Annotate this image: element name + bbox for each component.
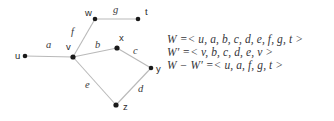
equation-W-minus-W-prime-text: W − W′ =< u, a, f, g, t >: [167, 59, 283, 71]
vertex-dot-w: [93, 17, 98, 22]
edge-a-u-v: [25, 56, 73, 57]
vertex-dot-x: [114, 45, 119, 50]
vertex-dot-y: [149, 66, 154, 71]
vertex-label-y: y: [156, 63, 161, 74]
edge-label-d: d: [138, 83, 144, 94]
edge-f-v-w: [73, 19, 95, 57]
equation-W-text: W =< u, a, b, c, d, e, f, g, t >: [167, 33, 303, 45]
edge-e-v-z: [73, 57, 116, 105]
equation-W-prime-text: W′ =< v, b, c, d, e, v >: [167, 46, 273, 58]
vertex-dot-t: [136, 17, 141, 22]
vertex-label-u: u: [15, 50, 20, 61]
vertex-label-w: w: [84, 7, 92, 18]
diagram-figure: u v w t x y z a f g b c d e W =< u, a, b…: [0, 0, 334, 121]
graph-edges: [25, 19, 151, 105]
edge-label-a: a: [46, 39, 51, 50]
vertex-label-v: v: [66, 41, 71, 52]
vertex-dot-z: [113, 102, 118, 107]
edge-label-f: f: [71, 26, 76, 37]
vertex-label-t: t: [145, 6, 148, 17]
edge-d-y-z: [116, 68, 151, 105]
edge-label-e: e: [85, 79, 90, 90]
vertex-dot-v: [70, 54, 75, 59]
edge-label-c: c: [133, 45, 138, 56]
edge-label-g: g: [113, 4, 118, 15]
equation-row-W-prime: W′ =< v, b, c, d, e, v >: [167, 46, 332, 59]
equation-row-W-minus-W-prime: W − W′ =< u, a, f, g, t >: [167, 59, 332, 72]
graph-vertex-labels: u v w t x y z: [15, 6, 161, 112]
vertex-label-x: x: [119, 32, 124, 43]
equations-block: W =< u, a, b, c, d, e, f, g, t > W′ =< v…: [167, 33, 332, 73]
equation-row-W: W =< u, a, b, c, d, e, f, g, t >: [167, 33, 332, 46]
vertex-label-z: z: [123, 101, 128, 112]
edge-label-b: b: [95, 39, 100, 50]
vertex-dot-u: [23, 54, 28, 59]
